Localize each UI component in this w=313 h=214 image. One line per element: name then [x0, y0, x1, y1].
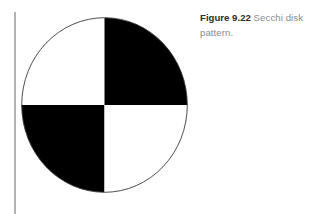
figure-page: Figure 9.22 Secchi disk pattern.	[0, 0, 313, 214]
left-margin-rule	[14, 12, 16, 214]
disk-quadrant-top-right	[105, 17, 189, 105]
figure-caption: Figure 9.22 Secchi disk pattern.	[200, 11, 312, 40]
disk-quadrant-bottom-left	[21, 105, 105, 193]
disk-quadrant-bottom-right	[105, 105, 189, 193]
secchi-disk-diagram	[21, 17, 188, 193]
figure-caption-label: Figure 9.22	[200, 12, 251, 23]
disk-quadrant-top-left	[21, 17, 105, 105]
